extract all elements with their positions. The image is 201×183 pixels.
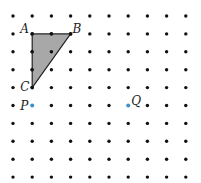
grid-dot: [184, 122, 187, 125]
grid-dot: [107, 175, 110, 178]
grid-dot: [165, 175, 168, 178]
grid-dot: [165, 158, 168, 161]
grid-dot: [146, 50, 149, 53]
grid-dot: [107, 140, 110, 143]
grid-dot: [127, 32, 130, 35]
grid-dot: [30, 68, 34, 72]
grid-dot: [50, 14, 53, 17]
grid-dot: [11, 14, 14, 17]
grid-dot: [107, 32, 110, 35]
point-q: [126, 104, 130, 108]
grid-dot: [11, 175, 14, 178]
grid-dot: [146, 14, 149, 17]
grid-dot: [184, 104, 187, 107]
grid-dot: [127, 175, 130, 178]
grid-dot: [88, 104, 91, 107]
grid-dot: [69, 86, 72, 89]
grid-dot: [165, 68, 168, 71]
grid-dot: [88, 140, 91, 143]
grid-dot: [50, 158, 53, 161]
grid-dot: [146, 175, 149, 178]
grid-dot: [30, 32, 34, 36]
grid-dot: [50, 175, 53, 178]
grid-dot: [88, 158, 91, 161]
grid-dot: [127, 50, 130, 53]
grid-dot: [127, 68, 130, 71]
grid-dot: [107, 14, 110, 17]
grid-dot: [165, 86, 168, 89]
grid-dot: [88, 32, 91, 35]
grid-dot: [11, 68, 14, 71]
grid-dot: [69, 175, 72, 178]
grid-dot: [11, 50, 14, 53]
grid-dot: [127, 14, 130, 17]
grid-dot: [69, 68, 72, 71]
dot-grid-diagram: A B C P Q: [0, 0, 201, 183]
grid-dot: [184, 68, 187, 71]
grid-dot: [184, 86, 187, 89]
grid-dot: [69, 14, 72, 17]
grid-dot: [50, 104, 53, 107]
grid-dot: [184, 158, 187, 161]
grid-dot: [146, 32, 149, 35]
grid-dot: [11, 158, 14, 161]
grid-dot: [31, 14, 34, 17]
grid-dot: [88, 14, 91, 17]
grid-dot: [184, 32, 187, 35]
grid-dot: [184, 175, 187, 178]
grid-dot: [30, 50, 34, 54]
grid-dot: [50, 122, 53, 125]
grid-dot: [146, 86, 149, 89]
grid-dot: [88, 68, 91, 71]
grid-dot: [11, 122, 14, 125]
grid-dot: [50, 50, 54, 54]
grid-dot: [107, 86, 110, 89]
grid-dot: [107, 68, 110, 71]
grid-dot: [11, 32, 14, 35]
grid-dot: [50, 68, 53, 71]
grid-dot: [31, 122, 34, 125]
grid-dot: [88, 175, 91, 178]
grid-dot: [11, 86, 14, 89]
point-p: [30, 104, 34, 108]
grid-dot: [69, 158, 72, 161]
grid-dot: [165, 50, 168, 53]
grid-dot: [30, 86, 34, 90]
grid-dot: [165, 122, 168, 125]
grid-dot: [107, 104, 110, 107]
grid-dot: [31, 175, 34, 178]
grid-dot: [127, 140, 130, 143]
grid-dot: [107, 50, 110, 53]
grid-dot: [11, 140, 14, 143]
grid-dot: [165, 14, 168, 17]
label-q: Q: [131, 94, 141, 108]
grid-dot: [184, 50, 187, 53]
grid-dot: [127, 158, 130, 161]
grid-dot: [50, 140, 53, 143]
grid-dot: [88, 122, 91, 125]
label-b: B: [72, 22, 82, 36]
grid-dot: [69, 140, 72, 143]
triangle-abc: [32, 34, 70, 88]
grid-dot: [50, 86, 53, 89]
grid-dot: [107, 122, 110, 125]
grid-dot: [146, 122, 149, 125]
grid-dot: [146, 104, 149, 107]
grid-dot: [88, 50, 91, 53]
grid-dot: [31, 158, 34, 161]
label-a: A: [19, 22, 29, 36]
grid-dot: [165, 32, 168, 35]
grid-dot: [127, 86, 130, 89]
grid-dot: [127, 122, 130, 125]
grid-dot: [69, 104, 72, 107]
grid-dot: [69, 122, 72, 125]
grid-dot: [146, 158, 149, 161]
grid-dot: [50, 32, 54, 36]
grid-dot: [88, 86, 91, 89]
grid-dot: [31, 140, 34, 143]
grid-dot: [11, 104, 14, 107]
grid-dot: [146, 140, 149, 143]
grid-dot: [69, 50, 72, 53]
label-p: P: [19, 99, 29, 113]
grid-dot: [184, 140, 187, 143]
